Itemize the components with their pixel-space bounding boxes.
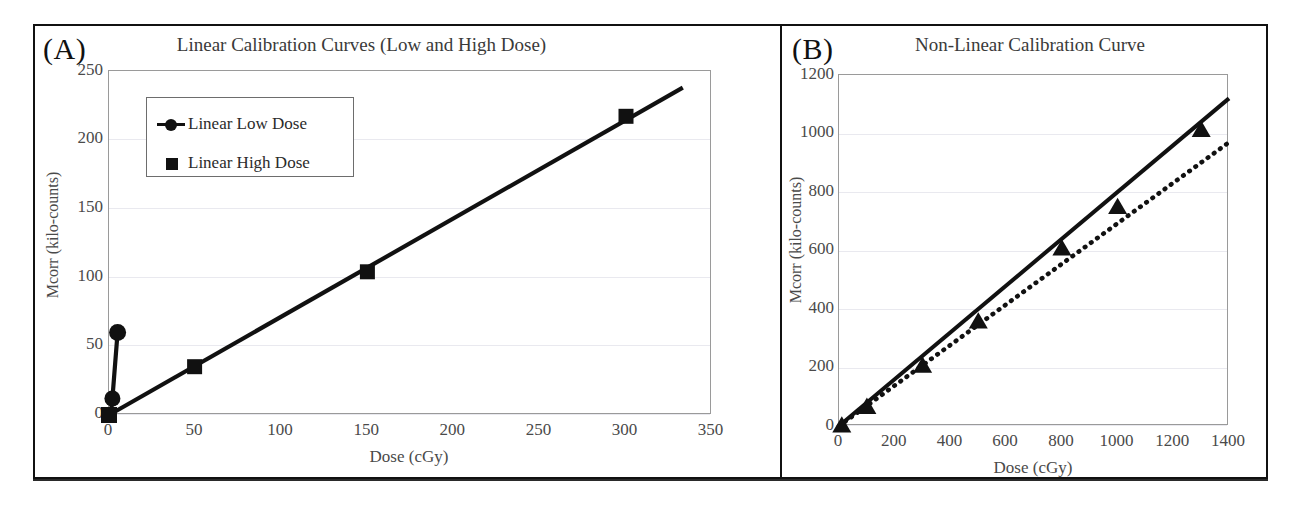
legend-label: Linear Low Dose [188,114,307,134]
panel-b-ytick-200: 200 [774,356,834,376]
figure-root: (A) Linear Calibration Curves (Low and H… [0,0,1301,523]
circle-line-marker-icon [157,116,185,132]
panel-b-xtick-800: 800 [1048,431,1074,451]
panel-b-xtick-1200: 1200 [1155,431,1189,451]
legend-item-linear-high-dose: Linear High Dose [157,149,343,176]
panel-a-xlabel: Dose (cGy) [370,447,449,467]
panel-a-ytick-250: 250 [35,60,103,80]
panel-a-xtick-300: 300 [612,420,638,440]
panel-b-xtick-0: 0 [834,431,843,451]
data-point-circle [109,324,126,341]
panel-b-ytick-1200: 1200 [774,64,834,84]
panel-b-xlabel: Dose (cGy) [994,458,1073,478]
panel-a-ytick-50: 50 [35,334,103,354]
data-point-circle [104,391,120,407]
panel-b: (B) Non-Linear Calibration Curve 1200 10… [782,24,1268,479]
panel-b-ytick-1000: 1000 [774,122,834,142]
data-point-square [619,109,634,124]
linear-extrapolation-line [839,142,1229,426]
panel-b-title: Non-Linear Calibration Curve [808,34,1252,56]
legend-label: Linear High Dose [188,153,310,173]
panel-b-xtick-200: 200 [881,431,907,451]
panel-b-series-layer [839,75,1229,426]
data-point-square [187,359,202,374]
panel-a: (A) Linear Calibration Curves (Low and H… [33,24,782,479]
legend-item-linear-low-dose: Linear Low Dose [157,110,343,137]
panel-a-xtick-50: 50 [186,420,203,440]
panel-a-ytick-0: 0 [35,403,103,423]
data-point-square [360,264,375,279]
panel-a-title: Linear Calibration Curves (Low and High … [49,34,674,56]
panel-b-xtick-400: 400 [937,431,963,451]
panel-b-ylabel: Mcorr (kilo-counts) [787,160,805,320]
panel-a-xtick-350: 350 [698,420,724,440]
panel-b-xtick-600: 600 [992,431,1018,451]
nonlinear-fit-line [839,98,1229,426]
panel-a-xtick-100: 100 [267,420,293,440]
panel-b-xtick-1000: 1000 [1100,431,1134,451]
panel-a-xtick-200: 200 [440,420,466,440]
panel-a-ytick-200: 200 [35,128,103,148]
panel-b-plot-area [838,74,1228,425]
data-point-triangle [1052,239,1071,255]
panel-a-ylabel: Mcorr (kilo-counts) [44,155,62,315]
panel-a-xtick-250: 250 [526,420,552,440]
panel-a-xtick-150: 150 [353,420,379,440]
figure-bottom-rule [33,479,1268,481]
data-point-triangle [1108,198,1127,214]
panel-a-plot-area: Linear Low Dose Linear High Dose [108,70,711,414]
panel-b-ytick-0: 0 [774,415,834,435]
panel-b-xtick-1400: 1400 [1211,431,1245,451]
panel-a-legend: Linear Low Dose Linear High Dose [146,97,354,177]
panel-a-xtick-0: 0 [104,420,113,440]
square-marker-icon [157,155,185,171]
